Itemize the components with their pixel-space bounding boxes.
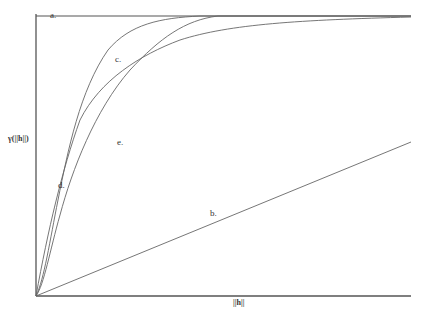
label-b: b.: [210, 208, 217, 218]
label-c: c.: [115, 54, 121, 64]
curve-c: [36, 16, 411, 296]
curve-d: [36, 17, 411, 296]
label-a: a.: [50, 10, 56, 20]
x-axis-label: ||h||: [233, 298, 245, 307]
curve-b: [36, 142, 411, 296]
label-e: e.: [117, 137, 123, 147]
curve-e: [36, 16, 411, 296]
variogram-chart: [0, 0, 423, 312]
y-axis-label: γ(||h||): [8, 134, 29, 143]
label-d: d.: [58, 180, 65, 190]
